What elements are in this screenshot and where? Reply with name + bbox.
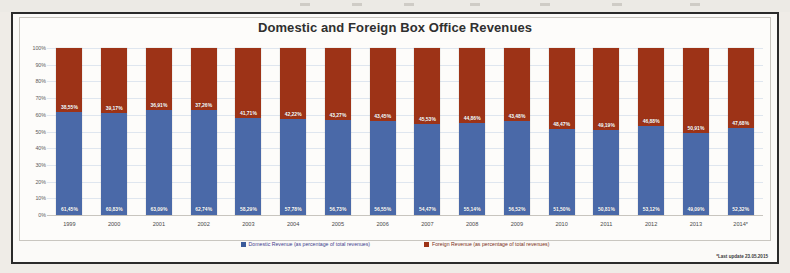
bar-segment-foreign[interactable]: 41,71%	[235, 48, 261, 118]
y-axis-tick-label: 10%	[16, 195, 46, 201]
stacked-bar[interactable]: 46,88%53,12%	[638, 48, 664, 215]
bar-segment-domestic[interactable]: 61,45%	[56, 112, 82, 215]
bar-segment-domestic[interactable]: 56,73%	[325, 120, 351, 215]
stacked-bar[interactable]: 49,19%50,81%	[593, 48, 619, 215]
bar-segment-foreign[interactable]: 48,47%	[549, 48, 575, 129]
bar-column: 42,22%57,78%	[271, 48, 316, 215]
stacked-bar[interactable]: 44,86%55,14%	[459, 48, 485, 215]
bar-value-label-foreign: 48,47%	[549, 121, 575, 127]
y-axis-tick-label: 60%	[16, 112, 46, 118]
bar-segment-domestic[interactable]: 56,52%	[504, 121, 530, 215]
bar-value-label-domestic: 62,74%	[191, 206, 217, 212]
bar-value-label-domestic: 56,73%	[325, 206, 351, 212]
stacked-bar[interactable]: 42,22%57,78%	[280, 48, 306, 215]
gridline	[47, 215, 763, 216]
bar-segment-domestic[interactable]: 58,29%	[235, 118, 261, 215]
bar-value-label-foreign: 36,91%	[146, 102, 172, 108]
stacked-bar[interactable]: 43,45%56,55%	[370, 48, 396, 215]
x-axis-tick-label: 2005	[316, 221, 361, 227]
stacked-bar[interactable]: 37,26%62,74%	[191, 48, 217, 215]
x-axis-tick-label: 2003	[226, 221, 271, 227]
y-axis-labels: 100%90%80%70%60%50%40%30%20%10%0%	[16, 42, 46, 221]
bar-column: 49,19%50,81%	[584, 48, 629, 215]
bar-segment-foreign[interactable]: 39,17%	[101, 48, 127, 113]
stacked-bar[interactable]: 50,91%49,09%	[683, 48, 709, 215]
bar-value-label-domestic: 63,09%	[146, 206, 172, 212]
x-axis-tick-label: 2004	[271, 221, 316, 227]
bar-column: 43,48%56,52%	[495, 48, 540, 215]
bar-value-label-foreign: 45,53%	[414, 116, 440, 122]
legend-item-foreign[interactable]: Foreign Revenue (as percentage of total …	[424, 241, 549, 247]
x-axis-tick-label: 2012	[629, 221, 674, 227]
bar-column: 50,91%49,09%	[674, 48, 719, 215]
bar-value-label-domestic: 50,81%	[593, 206, 619, 212]
bar-segment-domestic[interactable]: 49,09%	[683, 133, 709, 215]
bar-value-label-foreign: 42,22%	[280, 111, 306, 117]
bar-segment-foreign[interactable]: 38,55%	[56, 48, 82, 112]
legend-item-domestic[interactable]: Domestic Revenue (as percentage of total…	[241, 241, 370, 247]
bar-segment-foreign[interactable]: 36,91%	[146, 48, 172, 110]
x-axis-tick-label: 2013	[674, 221, 719, 227]
bar-segment-foreign[interactable]: 43,27%	[325, 48, 351, 120]
bar-value-label-foreign: 39,17%	[101, 105, 127, 111]
bar-segment-domestic[interactable]: 60,83%	[101, 113, 127, 215]
bar-segment-foreign[interactable]: 44,86%	[459, 48, 485, 123]
legend-swatch-foreign-icon	[424, 242, 429, 247]
y-axis-tick-label: 40%	[16, 145, 46, 151]
bar-segment-foreign[interactable]: 47,68%	[728, 48, 754, 128]
bar-segment-foreign[interactable]: 37,26%	[191, 48, 217, 110]
x-axis-tick-label: 2010	[539, 221, 584, 227]
bar-segment-domestic[interactable]: 54,47%	[414, 124, 440, 215]
bar-column: 43,45%56,55%	[360, 48, 405, 215]
bar-column: 48,47%51,50%	[539, 48, 584, 215]
stacked-bar[interactable]: 43,48%56,52%	[504, 48, 530, 215]
stacked-bar[interactable]: 47,68%52,32%	[728, 48, 754, 215]
x-axis-tick-label: 2002	[181, 221, 226, 227]
bar-value-label-domestic: 54,47%	[414, 206, 440, 212]
y-axis-tick-label: 100%	[16, 45, 46, 51]
bar-segment-domestic[interactable]: 51,50%	[549, 129, 575, 215]
bar-value-label-domestic: 51,50%	[549, 206, 575, 212]
x-axis-tick-label: 2001	[137, 221, 182, 227]
bar-column: 44,86%55,14%	[450, 48, 495, 215]
bar-segment-foreign[interactable]: 42,22%	[280, 48, 306, 119]
page-top-strip	[0, 0, 790, 12]
bar-segment-foreign[interactable]: 43,48%	[504, 48, 530, 121]
stacked-bar[interactable]: 45,53%54,47%	[414, 48, 440, 215]
x-axis-tick-label: 2009	[495, 221, 540, 227]
bar-value-label-foreign: 44,86%	[459, 115, 485, 121]
stacked-bar[interactable]: 41,71%58,29%	[235, 48, 261, 215]
bar-value-label-domestic: 56,55%	[370, 206, 396, 212]
bar-segment-foreign[interactable]: 46,88%	[638, 48, 664, 126]
bar-segment-domestic[interactable]: 53,12%	[638, 126, 664, 215]
bar-value-label-foreign: 46,88%	[638, 118, 664, 124]
bar-segment-foreign[interactable]: 43,45%	[370, 48, 396, 121]
stacked-bar[interactable]: 43,27%56,73%	[325, 48, 351, 215]
bar-segment-domestic[interactable]: 63,09%	[146, 110, 172, 215]
stacked-bar[interactable]: 39,17%60,83%	[101, 48, 127, 215]
scanned-page: Domestic and Foreign Box Office Revenues…	[0, 0, 790, 273]
bar-value-label-foreign: 43,48%	[504, 113, 530, 119]
x-axis-tick-label: 2008	[450, 221, 495, 227]
bar-value-label-foreign: 37,26%	[191, 102, 217, 108]
bar-column: 39,17%60,83%	[92, 48, 137, 215]
bar-segment-domestic[interactable]: 55,14%	[459, 123, 485, 215]
bar-value-label-domestic: 57,78%	[280, 206, 306, 212]
bar-segment-foreign[interactable]: 45,53%	[414, 48, 440, 124]
bar-segment-foreign[interactable]: 50,91%	[683, 48, 709, 133]
bar-value-label-foreign: 43,45%	[370, 113, 396, 119]
bar-column: 46,88%53,12%	[629, 48, 674, 215]
bar-segment-domestic[interactable]: 56,55%	[370, 121, 396, 215]
bar-segment-domestic[interactable]: 50,81%	[593, 130, 619, 215]
y-axis-tick-label: 70%	[16, 95, 46, 101]
bar-value-label-foreign: 41,71%	[235, 110, 261, 116]
bar-segment-domestic[interactable]: 57,78%	[280, 119, 306, 215]
bar-segment-domestic[interactable]: 62,74%	[191, 110, 217, 215]
stacked-bar[interactable]: 38,55%61,45%	[56, 48, 82, 215]
stacked-bar[interactable]: 48,47%51,50%	[549, 48, 575, 215]
bar-value-label-domestic: 56,52%	[504, 206, 530, 212]
bar-segment-domestic[interactable]: 52,32%	[728, 128, 754, 215]
y-axis-tick-label: 80%	[16, 78, 46, 84]
stacked-bar[interactable]: 36,91%63,09%	[146, 48, 172, 215]
bar-segment-foreign[interactable]: 49,19%	[593, 48, 619, 130]
